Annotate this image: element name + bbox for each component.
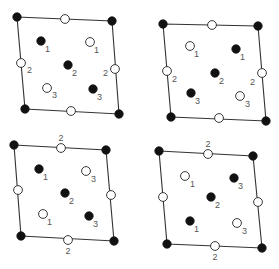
filled-atom	[110, 237, 118, 245]
height-label: 2	[69, 196, 74, 206]
height-label: 3	[195, 96, 200, 106]
height-label: 2	[72, 68, 77, 78]
height-label: 3	[245, 99, 250, 109]
filled-atom	[37, 37, 45, 45]
filled-atom	[232, 45, 240, 53]
open-atom	[211, 242, 220, 251]
open-atom	[61, 15, 70, 24]
filled-atom	[254, 22, 262, 30]
filled-atom	[89, 85, 97, 93]
diagram-stage: 2211233221123313213221321322	[0, 0, 279, 269]
panel-bottom-right: 1321322	[155, 139, 266, 262]
filled-atom	[155, 147, 163, 155]
filled-atom	[163, 240, 171, 248]
filled-atom	[258, 244, 266, 252]
filled-atom	[167, 113, 175, 121]
filled-atom	[249, 152, 257, 160]
filled-atom	[115, 110, 123, 118]
height-label: 2	[172, 74, 177, 84]
open-atom	[181, 172, 190, 181]
filled-atom	[108, 17, 116, 25]
open-atom	[236, 92, 245, 101]
bottom-label: 2	[65, 246, 70, 256]
open-atom	[67, 107, 76, 116]
open-atom	[254, 198, 263, 207]
filled-atom	[230, 174, 238, 182]
open-atom	[82, 167, 91, 176]
bottom-label: 2	[212, 252, 217, 262]
height-label: 3	[238, 181, 243, 191]
height-label: 1	[190, 179, 195, 189]
open-atom	[107, 191, 116, 200]
panel-top-left: 2211233	[13, 13, 123, 118]
filled-atom	[159, 20, 167, 28]
height-label: 1	[194, 49, 199, 59]
height-label: 2	[103, 68, 108, 78]
open-atom	[215, 114, 224, 123]
filled-atom	[13, 13, 21, 21]
filled-atom	[207, 193, 215, 201]
filled-atom	[102, 146, 110, 154]
filled-atom	[64, 61, 72, 69]
height-label: 3	[242, 226, 247, 236]
filled-atom	[17, 232, 25, 240]
height-label: 2	[219, 76, 224, 86]
height-label: 3	[52, 90, 57, 100]
open-atom	[14, 186, 23, 195]
open-atom	[64, 236, 73, 245]
open-atom	[163, 67, 172, 76]
height-label: 3	[93, 219, 98, 229]
height-label: 1	[43, 172, 48, 182]
filled-atom	[187, 89, 195, 97]
filled-atom	[85, 212, 93, 220]
height-label: 1	[94, 45, 99, 55]
filled-atom	[61, 189, 69, 197]
height-label: 1	[240, 52, 245, 62]
panel-bottom-left: 1321322	[10, 133, 118, 256]
open-atom	[204, 150, 213, 159]
panel-top-right: 2211233	[159, 20, 270, 125]
filled-atom	[186, 217, 194, 225]
top-label: 2	[58, 133, 63, 143]
height-label: 1	[47, 217, 52, 227]
open-atom	[43, 84, 52, 93]
top-label: 2	[205, 139, 210, 149]
unit-cell-diagram: 2211233221123313213221321322	[0, 0, 279, 269]
filled-atom	[21, 105, 29, 113]
open-atom	[111, 65, 120, 74]
open-atom	[233, 219, 242, 228]
filled-atom	[35, 165, 43, 173]
open-atom	[258, 69, 267, 78]
height-label: 1	[45, 44, 50, 54]
height-label: 3	[97, 92, 102, 102]
height-label: 2	[27, 65, 32, 75]
open-atom	[57, 144, 66, 153]
height-label: 2	[215, 200, 220, 210]
filled-atom	[211, 69, 219, 77]
height-label: 2	[250, 77, 255, 87]
filled-atom	[10, 141, 18, 149]
open-atom	[159, 193, 168, 202]
open-atom	[208, 21, 217, 30]
filled-atom	[262, 117, 270, 125]
height-label: 1	[194, 224, 199, 234]
height-label: 3	[91, 174, 96, 184]
open-atom	[17, 59, 26, 68]
